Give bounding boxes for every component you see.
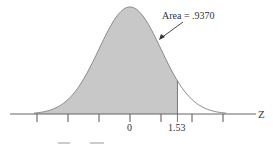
axis-ticks — [37, 114, 223, 122]
tick-label-zero: 0 — [127, 122, 132, 133]
caption-fragment — [58, 142, 70, 144]
axis-label: Z — [258, 108, 265, 120]
tick-label-boundary: 1.53 — [168, 122, 186, 133]
shaded-area — [34, 7, 178, 114]
normal-curve-figure: Z 0 1.53 Area = .9370 — [0, 0, 273, 147]
caption-fragment — [90, 142, 104, 144]
chart-svg: Z 0 1.53 Area = .9370 — [0, 0, 273, 147]
arrow-head-icon — [159, 34, 165, 40]
area-annotation: Area = .9370 — [162, 10, 215, 21]
annotation-arrow — [161, 22, 183, 38]
